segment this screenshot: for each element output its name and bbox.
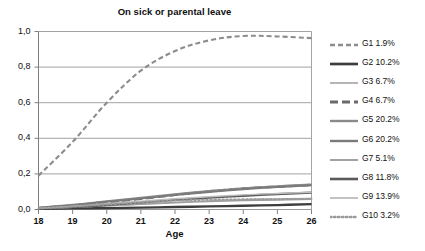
legend-label-g5: G5 20.2% [362, 114, 399, 124]
legend-label-g3: G3 6.7% [362, 76, 395, 86]
x-axis-tick-label: 18 [27, 216, 51, 226]
legend-item-g10[interactable]: G10 3.2% [330, 206, 425, 225]
x-axis-tick-label: 26 [300, 216, 324, 226]
legend-swatch-g9 [330, 190, 358, 202]
legend-item-g2[interactable]: G2 10.2% [330, 52, 425, 71]
x-axis-tick-label: 23 [197, 216, 221, 226]
legend-item-g7[interactable]: G7 5.1% [330, 148, 425, 167]
y-axis-tick-label: 1,0 [1, 26, 31, 36]
y-axis-tick-label: 0,8 [1, 61, 31, 71]
legend-swatch-g1 [330, 37, 358, 49]
legend-swatch-g7 [330, 152, 358, 164]
legend-swatch-g10 [330, 209, 358, 221]
series-line-g1 [39, 36, 312, 176]
legend-swatch-g6 [330, 133, 358, 145]
legend-swatch-g5 [330, 113, 358, 125]
chart-legend: G1 1.9%G2 10.2%G3 6.7%G4 6.7%G5 20.2%G6 … [330, 33, 425, 225]
legend-label-g4: G4 6.7% [362, 95, 395, 105]
x-axis-title: Age [38, 228, 311, 239]
legend-label-g7: G7 5.1% [362, 153, 395, 163]
y-axis-tick-label: 0,2 [1, 168, 31, 178]
legend-label-g8: G8 11.8% [362, 172, 399, 182]
legend-item-g4[interactable]: G4 6.7% [330, 91, 425, 110]
legend-item-g6[interactable]: G6 20.2% [330, 129, 425, 148]
legend-label-g6: G6 20.2% [362, 134, 399, 144]
legend-item-g5[interactable]: G5 20.2% [330, 110, 425, 129]
legend-item-g1[interactable]: G1 1.9% [330, 33, 425, 52]
x-axis-tick-label: 21 [129, 216, 153, 226]
legend-item-g9[interactable]: G9 13.9% [330, 187, 425, 206]
chart-container: On sick or parental leave 0,00,20,40,60,… [0, 0, 425, 251]
legend-swatch-g3 [330, 75, 358, 87]
x-axis-tick-label: 25 [265, 216, 289, 226]
legend-item-g8[interactable]: G8 11.8% [330, 167, 425, 186]
legend-item-g3[interactable]: G3 6.7% [330, 71, 425, 90]
y-axis-tick-label: 0,4 [1, 132, 31, 142]
legend-label-g10: G10 3.2% [362, 210, 399, 220]
legend-label-g2: G2 10.2% [362, 57, 399, 67]
legend-swatch-g4 [330, 94, 358, 106]
legend-label-g9: G9 13.9% [362, 191, 399, 201]
legend-swatch-g8 [330, 171, 358, 183]
x-axis-tick-label: 20 [95, 216, 119, 226]
y-axis-tick-label: 0,0 [1, 204, 31, 214]
y-axis-tick-label: 0,6 [1, 97, 31, 107]
x-axis-tick-label: 24 [231, 216, 255, 226]
legend-swatch-g2 [330, 56, 358, 68]
x-axis-tick-label: 19 [61, 216, 85, 226]
x-axis-tick-label: 22 [163, 216, 187, 226]
legend-label-g1: G1 1.9% [362, 38, 395, 48]
